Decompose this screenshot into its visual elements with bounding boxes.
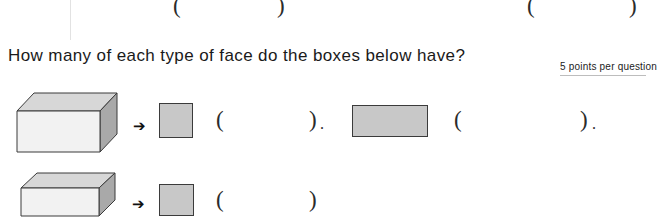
paren-open: ( bbox=[216, 108, 224, 131]
period: . bbox=[592, 115, 596, 133]
paren-open: ( bbox=[527, 0, 535, 17]
paren-open: ( bbox=[173, 0, 181, 17]
arrow-icon: ➔ bbox=[133, 118, 146, 133]
paren-open: ( bbox=[216, 188, 224, 211]
rectangular-prism-flat-icon bbox=[20, 172, 116, 218]
points-note-underline bbox=[560, 75, 646, 76]
square-face-swatch bbox=[159, 103, 193, 138]
paren-close: ) bbox=[277, 0, 285, 17]
paren-open: ( bbox=[454, 108, 462, 131]
period: . bbox=[320, 115, 324, 133]
points-per-question-note: 5 points per question bbox=[560, 61, 657, 72]
question-prompt: How many of each type of face do the box… bbox=[8, 46, 465, 66]
square-face-swatch bbox=[159, 184, 194, 216]
rectangular-face-swatch bbox=[352, 105, 428, 137]
paren-close: ) bbox=[629, 0, 637, 17]
rectangular-prism-long-icon bbox=[16, 92, 118, 154]
margin-rule bbox=[70, 0, 71, 40]
arrow-icon: ➔ bbox=[132, 196, 145, 211]
paren-close: ) bbox=[580, 108, 588, 131]
paren-close: ) bbox=[309, 188, 317, 211]
paren-close: ) bbox=[309, 108, 317, 131]
